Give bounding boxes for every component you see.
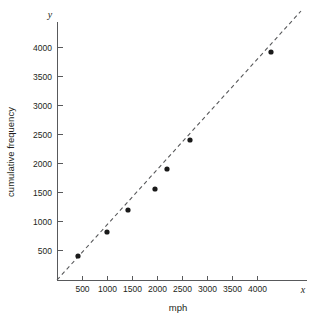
scatter-plot-figure: 500 1000 1500 2000 2500 3000 3500 4000 y… xyxy=(0,0,317,317)
x-tick-label-500: 500 xyxy=(75,284,89,294)
data-point xyxy=(152,186,157,191)
data-points-group xyxy=(75,49,273,258)
x-axis-title: mph xyxy=(169,302,187,313)
y-tick-label-4000: 4000 xyxy=(33,43,52,53)
y-tick-label-2000: 2000 xyxy=(33,159,52,169)
x-tick-label-1000: 1000 xyxy=(98,284,117,294)
data-point xyxy=(104,229,109,234)
reference-trend-line xyxy=(57,11,301,280)
x-tick-label-3500: 3500 xyxy=(223,284,242,294)
y-tick-label-3000: 3000 xyxy=(33,101,52,111)
x-tick-label-3000: 3000 xyxy=(198,284,217,294)
data-point xyxy=(268,49,273,54)
y-axis-name: y xyxy=(47,9,53,20)
data-point xyxy=(187,137,192,142)
x-tick-label-2000: 2000 xyxy=(148,284,167,294)
x-tick-label-1500: 1500 xyxy=(123,284,142,294)
y-tick-label-1000: 1000 xyxy=(33,217,52,227)
reference-trend-line-group xyxy=(57,11,301,280)
x-tick-label-4000: 4000 xyxy=(248,284,267,294)
x-tick-label-2500: 2500 xyxy=(173,284,192,294)
x-axis-name: x xyxy=(300,284,306,295)
y-tick-label-3500: 3500 xyxy=(33,72,52,82)
y-axis-title: cumulative frequency xyxy=(5,107,16,197)
chart-canvas: 500 1000 1500 2000 2500 3000 3500 4000 y… xyxy=(0,0,317,317)
data-point xyxy=(125,207,130,212)
x-axis-group: 500 1000 1500 2000 2500 3000 3500 4000 x xyxy=(57,276,307,296)
data-point xyxy=(164,166,169,171)
y-tick-label-1500: 1500 xyxy=(33,188,52,198)
data-point xyxy=(75,253,80,258)
y-axis-group: 500 1000 1500 2000 2500 3000 3500 4000 y xyxy=(33,9,62,281)
y-tick-label-2500: 2500 xyxy=(33,130,52,140)
y-tick-label-500: 500 xyxy=(38,246,52,256)
